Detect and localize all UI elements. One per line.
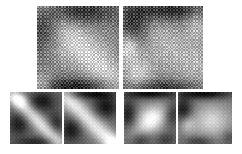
heatmap-panel-bottom-1 (10, 92, 62, 144)
heatmap-panel-bottom-2 (64, 92, 116, 144)
heatmap-canvas (123, 6, 203, 89)
heatmap-canvas (37, 6, 119, 89)
heatmap-canvas (124, 92, 176, 144)
heatmap-panel-top-right (123, 6, 203, 89)
heatmap-canvas (64, 92, 116, 144)
heatmap-canvas (178, 92, 232, 144)
heatmap-panel-bottom-4 (178, 92, 232, 144)
heatmap-panel-bottom-3 (124, 92, 176, 144)
heatmap-figure (0, 0, 242, 154)
heatmap-canvas (10, 92, 62, 144)
heatmap-panel-top-left (37, 6, 119, 89)
